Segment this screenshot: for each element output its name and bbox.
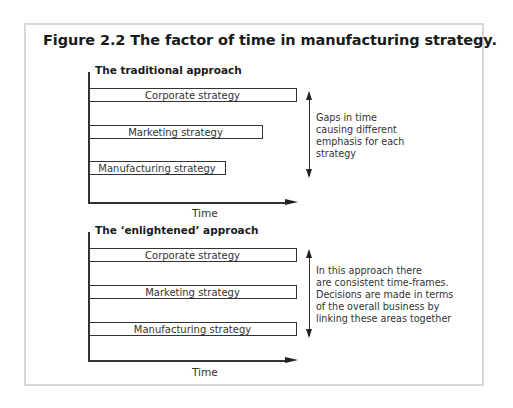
enlightened-time-arrow-icon (285, 357, 298, 363)
enlightened-bar-corporate: Corporate strategy (89, 248, 297, 262)
enlightened-bar-manufacturing: Manufacturing strategy (89, 322, 297, 336)
enlightened-time-axis (88, 360, 288, 362)
figure-title: Figure 2.2 The factor of time in manufac… (43, 32, 497, 48)
enlightened-bar-marketing: Marketing strategy (89, 285, 297, 299)
enlightened-note: In this approach there are consistent ti… (316, 265, 453, 325)
traditional-time-arrow-icon (285, 199, 298, 205)
traditional-span-arrow-icon (309, 93, 310, 176)
traditional-bar-marketing: Marketing strategy (89, 125, 263, 139)
traditional-axis-label: Time (192, 207, 218, 219)
enlightened-axis-label: Time (192, 366, 218, 378)
traditional-title: The traditional approach (95, 64, 242, 76)
traditional-bar-manufacturing: Manufacturing strategy (89, 161, 226, 175)
traditional-bar-corporate: Corporate strategy (89, 88, 297, 102)
enlightened-span-arrow-icon (309, 251, 310, 336)
traditional-time-axis (88, 202, 288, 204)
traditional-note: Gaps in time causing different emphasis … (316, 112, 404, 160)
enlightened-title: The ‘enlightened’ approach (95, 224, 258, 236)
